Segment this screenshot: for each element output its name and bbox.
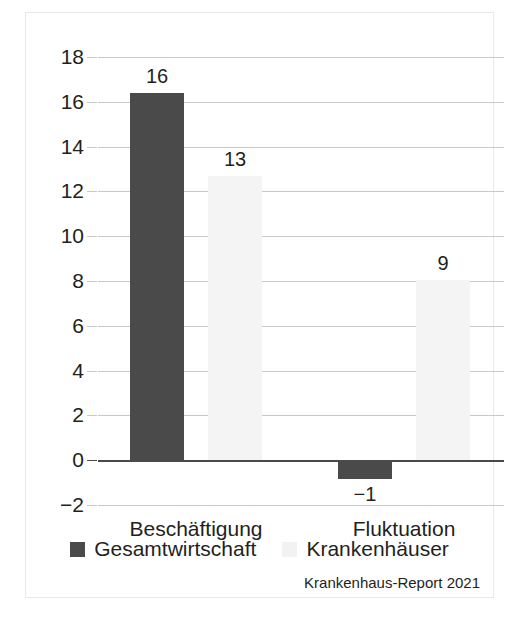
gridline-minus2: −2: [98, 505, 504, 506]
ytick-label-2: 2: [72, 403, 84, 427]
gridline-18: 18: [98, 57, 504, 58]
legend-label-gesamtwirtschaft: Gesamtwirtschaft: [94, 537, 256, 561]
chart-figure: 18 16 14 12 10 8: [0, 0, 528, 629]
chart-frame: 18 16 14 12 10 8: [25, 12, 494, 598]
legend-label-krankenhaeuser: Krankenhäuser: [306, 537, 448, 561]
ytick-label-0: 0: [72, 448, 84, 472]
tick-stub-14: [87, 147, 97, 148]
tick-stub-0: [87, 460, 97, 461]
ytick-label-18: 18: [61, 45, 84, 69]
value-label-krankenhaeuser-fluktuation: 9: [437, 252, 448, 275]
legend-item-gesamtwirtschaft[interactable]: Gesamtwirtschaft: [70, 537, 256, 561]
ytick-label-6: 6: [72, 314, 84, 338]
bar-gesamtwirtschaft-beschaeftigung: [130, 93, 184, 460]
tick-stub-12: [87, 191, 97, 192]
tick-stub-2: [87, 415, 97, 416]
tick-stub-8: [87, 281, 97, 282]
ytick-label-8: 8: [72, 269, 84, 293]
ytick-label-14: 14: [61, 135, 84, 159]
chart-legend: Gesamtwirtschaft Krankenhäuser: [26, 537, 493, 561]
value-label-gesamtwirtschaft-fluktuation: −1: [354, 483, 377, 506]
legend-swatch-icon-gesamtwirtschaft: [70, 542, 85, 557]
tick-stub-minus2: [87, 505, 97, 506]
ytick-label-16: 16: [61, 90, 84, 114]
ytick-label-10: 10: [61, 224, 84, 248]
value-label-krankenhaeuser-beschaeftigung: 13: [224, 148, 246, 171]
tick-stub-6: [87, 326, 97, 327]
value-label-gesamtwirtschaft-beschaeftigung: 16: [146, 65, 168, 88]
tick-stub-16: [87, 102, 97, 103]
ytick-label-12: 12: [61, 179, 84, 203]
plot-area: 18 16 14 12 10 8: [98, 57, 504, 505]
bar-krankenhaeuser-fluktuation: [416, 280, 470, 460]
tick-stub-4: [87, 371, 97, 372]
tick-stub-10: [87, 236, 97, 237]
gridline-zero-axis: 0: [98, 460, 504, 461]
bar-gesamtwirtschaft-fluktuation: [338, 460, 392, 479]
source-caption: Krankenhaus-Report 2021: [304, 574, 480, 591]
legend-item-krankenhaeuser[interactable]: Krankenhäuser: [282, 537, 448, 561]
ytick-label-4: 4: [72, 359, 84, 383]
tick-stub-18: [87, 57, 97, 58]
legend-swatch-icon-krankenhaeuser: [282, 542, 297, 557]
bar-krankenhaeuser-beschaeftigung: [208, 176, 262, 460]
ytick-label-minus2: −2: [60, 493, 84, 517]
